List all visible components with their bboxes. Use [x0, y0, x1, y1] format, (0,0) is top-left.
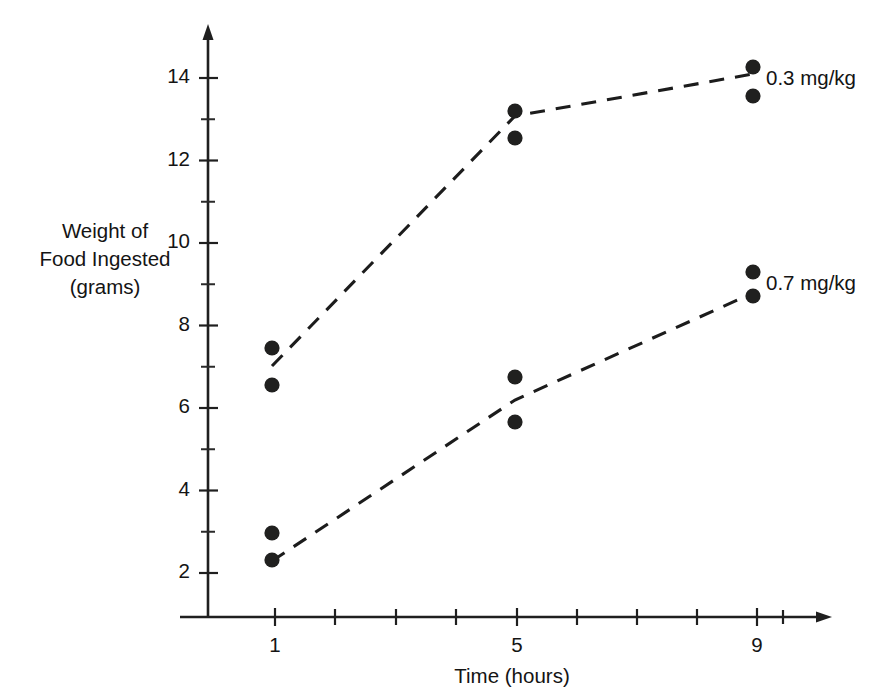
- y-tick-label: 2: [179, 559, 190, 582]
- x-axis-arrowhead-icon: [816, 612, 832, 623]
- y-tick-label: 4: [179, 477, 190, 500]
- series-0-7-mg-kg-points: [264, 264, 760, 567]
- x-tick-label: 9: [751, 633, 762, 656]
- x-axis-tick-labels: 1 5 9: [269, 633, 762, 656]
- y-axis-title-line-2: Food Ingested: [39, 247, 170, 270]
- y-axis-title-line-1: Weight of: [62, 219, 149, 242]
- data-point: [507, 414, 522, 429]
- x-axis-title: Time (hours): [454, 664, 569, 687]
- y-tick-label: 10: [167, 229, 190, 252]
- y-axis-title: Weight of Food Ingested (grams): [39, 219, 170, 298]
- data-point: [745, 264, 760, 279]
- y-tick-label: 8: [179, 312, 190, 335]
- data-point: [745, 88, 760, 103]
- y-tick-label: 12: [167, 147, 190, 170]
- y-tick-label: 6: [179, 394, 190, 417]
- series-label-0-3-mg-kg: 0.3 mg/kg: [766, 66, 856, 89]
- data-point: [745, 59, 760, 74]
- data-point: [507, 103, 522, 118]
- data-point: [264, 340, 279, 355]
- y-axis-arrowhead-icon: [203, 24, 214, 40]
- data-point: [507, 369, 522, 384]
- y-axis-title-line-3: (grams): [70, 275, 141, 298]
- y-tick-label: 14: [167, 64, 190, 87]
- series-label-0-7-mg-kg: 0.7 mg/kg: [766, 271, 856, 294]
- x-tick-label: 5: [511, 633, 522, 656]
- data-point: [264, 377, 279, 392]
- data-point: [745, 288, 760, 303]
- data-point: [264, 525, 279, 540]
- y-axis: [203, 24, 214, 617]
- figure-scatter-chart: 14 12 10 8 6 4 2 1 5 9 Time (: [0, 0, 877, 698]
- data-point: [507, 130, 522, 145]
- y-axis-tick-labels: 14 12 10 8 6 4 2: [167, 64, 190, 582]
- series-0-3-mg-kg-points: [264, 59, 760, 392]
- x-axis: [180, 612, 832, 623]
- x-tick-label: 1: [269, 633, 280, 656]
- data-point: [264, 552, 279, 567]
- chart-canvas: 14 12 10 8 6 4 2 1 5 9 Time (: [0, 0, 877, 698]
